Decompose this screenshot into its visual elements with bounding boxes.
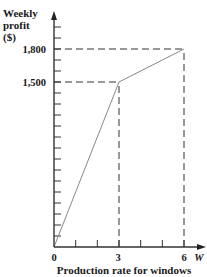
x-axis-title: Production rate for windows (57, 264, 192, 276)
dashed-reference-lines (54, 49, 184, 247)
profit-chart: Weekly profit ($) 1,800 1,500 0 3 6 W Pr… (0, 0, 207, 277)
x-axis-arrow-icon (197, 244, 206, 250)
y-axis-title-line-3: ($) (3, 31, 16, 44)
y-axis-title-line-2: profit (3, 19, 30, 31)
y-axis-ticks (54, 27, 61, 236)
x-tick-label-3: 3 (115, 252, 120, 263)
y-axis-arrow-icon (51, 11, 57, 20)
x-axis-ticks (76, 240, 184, 247)
x-tick-label-6: 6 (181, 252, 186, 263)
y-tick-label-1800: 1,800 (22, 44, 46, 55)
x-tick-label-0: 0 (51, 252, 56, 263)
y-tick-label-1500: 1,500 (22, 77, 46, 88)
x-axis-variable: W (194, 252, 204, 263)
y-axis-title-line-1: Weekly (3, 7, 38, 19)
